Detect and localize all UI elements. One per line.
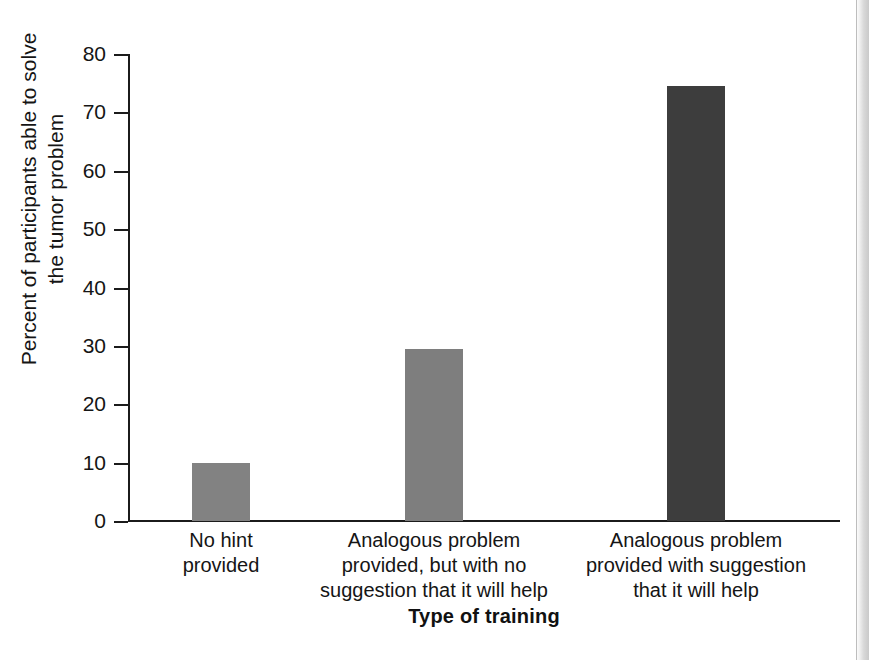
x-axis-title: Type of training <box>128 605 840 628</box>
y-tick-label: 10 <box>54 452 106 473</box>
y-tick-mark <box>114 404 128 406</box>
x-category-label-3: Analogous problem provided with suggesti… <box>546 528 846 603</box>
page-edge-line <box>856 0 857 660</box>
page-edge-shadow <box>856 0 869 660</box>
plot-area <box>128 54 840 521</box>
bar-1 <box>192 463 250 521</box>
y-tick-mark <box>114 346 128 348</box>
y-tick-label: 0 <box>54 510 106 531</box>
y-tick-mark <box>114 112 128 114</box>
y-tick-mark <box>114 171 128 173</box>
y-tick-mark <box>114 288 128 290</box>
figure-page: 80706050403020100 No hint providedAnalog… <box>0 0 869 660</box>
y-axis-title: Percent of participants able to solve th… <box>15 0 69 409</box>
bar-chart: 80706050403020100 No hint providedAnalog… <box>0 0 856 660</box>
y-tick-mark <box>114 463 128 465</box>
y-tick-mark <box>114 229 128 231</box>
bar-3 <box>667 86 725 521</box>
y-tick-mark <box>114 54 128 56</box>
x-category-label-2: Analogous problem provided, but with no … <box>279 528 589 603</box>
y-tick-mark <box>114 521 128 523</box>
bar-2 <box>405 349 463 521</box>
